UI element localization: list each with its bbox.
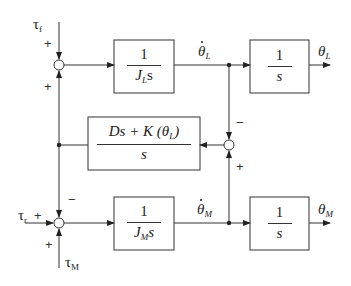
motor-inertia-denominator: JMs	[134, 225, 154, 242]
top-summing-junction	[54, 60, 64, 70]
motor-inertia-block: 1 JMs	[114, 197, 174, 250]
motor-inertia-numerator: 1	[140, 204, 148, 220]
bottom-junction-left-sign: +	[34, 209, 42, 222]
fraction-bar	[268, 66, 292, 67]
fraction-bar	[127, 222, 161, 223]
right-junction-top-sign: −	[236, 116, 244, 129]
fraction-bar	[97, 144, 191, 145]
tau-M-label: τM	[65, 255, 79, 272]
right-summing-junction	[224, 140, 234, 150]
bottom-junction-top-sign: −	[68, 193, 76, 206]
theta-L-output-label: θL	[318, 44, 330, 61]
load-integrator-numerator: 1	[276, 48, 284, 64]
branch-point-theta-M-dot	[227, 221, 231, 225]
theta-M-dot-label: θM	[197, 202, 212, 219]
motor-integrator-block: 1 s	[250, 197, 309, 250]
tau-f-label: τf	[33, 17, 42, 34]
load-integrator-denominator: s	[277, 69, 283, 85]
bottom-junction-bottom-sign: +	[45, 238, 53, 251]
motor-integrator-numerator: 1	[276, 205, 284, 221]
right-junction-bottom-sign: +	[236, 160, 244, 173]
motor-integrator-denominator: s	[277, 226, 283, 242]
theta-L-dot-label: θL	[198, 44, 210, 61]
load-integrator-block: 1 s	[250, 40, 309, 93]
fraction-bar	[268, 223, 292, 224]
coupling-numerator: Ds + K (θL)	[109, 124, 179, 141]
branch-point-theta-L-dot	[227, 63, 231, 67]
top-junction-top-sign: +	[44, 37, 52, 50]
theta-M-output-label: θM	[318, 202, 333, 219]
load-inertia-denominator: JLs	[135, 68, 153, 85]
coupling-block: Ds + K (θL) s	[88, 117, 200, 170]
coupling-denominator: s	[141, 147, 147, 163]
top-junction-bottom-sign: +	[44, 80, 52, 93]
bottom-summing-junction	[54, 218, 64, 228]
tau-r-label: τr	[18, 208, 27, 225]
branch-point-coupling	[57, 143, 61, 147]
load-inertia-numerator: 1	[140, 47, 148, 63]
fraction-bar	[127, 65, 161, 66]
load-inertia-block: 1 JLs	[114, 40, 174, 93]
